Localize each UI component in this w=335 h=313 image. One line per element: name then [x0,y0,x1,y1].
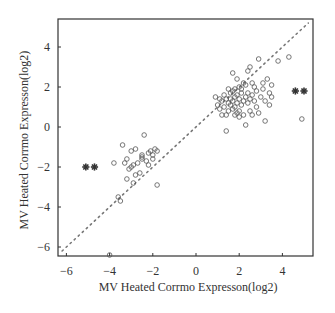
x-tick-label: −4 [103,264,116,278]
star-marker [292,87,299,94]
x-tick-label: −2 [146,264,159,278]
y-tick-label: 2 [44,80,50,94]
star-marker [82,163,89,170]
plot-frame [58,19,313,256]
y-axis-label: MV Heated Corrmo Expresson(log2) [17,51,31,230]
star-marker [91,163,98,170]
x-tick-label: 4 [279,264,285,278]
y-tick-label: −4 [37,200,50,214]
y-tick-label: −2 [37,160,50,174]
x-tick-label: 0 [193,264,199,278]
x-tick-label: 2 [236,264,242,278]
x-axis-label: MV Heated Corrmo Expresson(log2) [99,280,278,294]
y-tick-label: 0 [44,120,50,134]
y-tick-label: 4 [44,40,50,54]
star-marker [300,87,307,94]
x-axis-ticks: −6−4−2024 [60,253,285,278]
y-tick-label: −6 [37,240,50,254]
scatter-chart: −6−4−2024 −6−4−2024 MV Heated Corrmo Exp… [0,0,335,313]
x-tick-label: −6 [60,264,73,278]
